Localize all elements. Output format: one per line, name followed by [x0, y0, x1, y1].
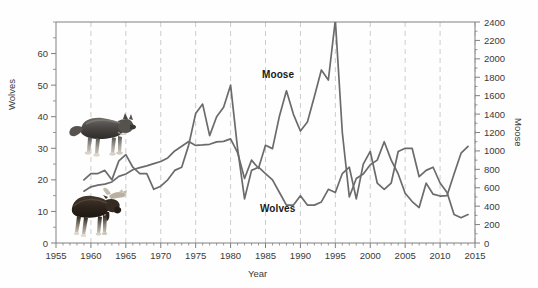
y-right-tick-label: 2200 — [484, 35, 505, 46]
x-tick-label: 2000 — [360, 250, 381, 261]
x-tick-label: 2005 — [395, 250, 416, 261]
y-right-tick-label: 2400 — [484, 17, 505, 28]
x-tick-label: 1995 — [325, 250, 346, 261]
y-right-tick-label: 600 — [484, 182, 500, 193]
x-tick-label: 1990 — [290, 250, 311, 261]
x-tick-label: 1960 — [80, 250, 101, 261]
moose-photo — [60, 186, 128, 240]
y-axis-left-ticks: 0102030405060 — [37, 22, 56, 249]
y-left-tick-label: 30 — [37, 143, 48, 154]
y-right-tick-label: 800 — [484, 164, 500, 175]
y-right-tick-label: 1800 — [484, 72, 505, 83]
series-label-moose: Moose — [262, 69, 294, 80]
series-line-wolves — [84, 85, 468, 218]
y-right-tick-label: 400 — [484, 201, 500, 212]
x-tick-label: 1985 — [255, 250, 276, 261]
x-tick-label: 1975 — [185, 250, 206, 261]
y-right-tick-label: 1600 — [484, 90, 505, 101]
y-axis-right-ticks: 0200400600800100012001400160018002000220… — [475, 17, 505, 249]
x-tick-label: 1955 — [45, 250, 66, 261]
y-right-tick-label: 2000 — [484, 53, 505, 64]
y-left-tick-label: 50 — [37, 80, 48, 91]
x-tick-label: 1965 — [115, 250, 136, 261]
y-left-tick-label: 10 — [37, 206, 48, 217]
y-right-tick-label: 200 — [484, 219, 500, 230]
x-tick-label: 1980 — [220, 250, 241, 261]
wolf-moose-population-chart: 1955196019651970197519801985199019952000… — [0, 0, 538, 288]
x-axis-ticks: 1955196019651970197519801985199019952000… — [45, 243, 485, 261]
y-left-tick-label: 20 — [37, 174, 48, 185]
y-right-tick-label: 1400 — [484, 109, 505, 120]
y-left-tick-label: 0 — [43, 238, 48, 249]
y-right-tick-label: 1000 — [484, 145, 505, 156]
series-label-wolves: Wolves — [260, 203, 295, 214]
x-tick-label: 1970 — [150, 250, 171, 261]
y-axis-right-title: Moose — [513, 118, 524, 147]
series-line-moose — [84, 20, 468, 208]
x-tick-label: 2010 — [430, 250, 451, 261]
y-right-tick-label: 0 — [484, 238, 489, 249]
wolf-photo — [68, 108, 136, 160]
x-tick-label: 2015 — [464, 250, 485, 261]
data-series-lines — [84, 20, 468, 218]
y-left-tick-label: 60 — [37, 48, 48, 59]
y-left-tick-label: 40 — [37, 111, 48, 122]
y-axis-left-title: Wolves — [6, 79, 17, 110]
y-right-tick-label: 1200 — [484, 127, 505, 138]
x-axis-title: Year — [248, 268, 267, 279]
